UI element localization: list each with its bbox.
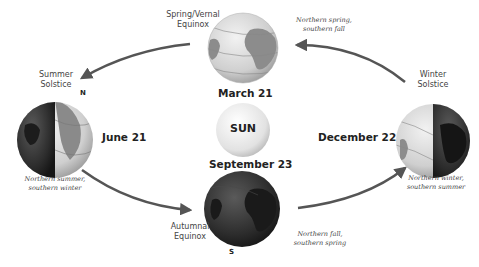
summer-title-line1: Summer — [28, 70, 84, 80]
summer-date: June 21 — [102, 131, 146, 143]
south-pole-label: S — [229, 248, 234, 256]
winter-solstice-title: Winter Solstice — [405, 70, 461, 89]
autumn-title-line1: Autumnal — [162, 222, 218, 232]
winter-note: Northern winter, southern summer — [393, 174, 479, 191]
autumn-equinox-title: Autumnal Equinox — [162, 222, 218, 241]
autumn-note-line1: Northern fall, — [282, 230, 358, 239]
winter-note-line1: Northern winter, — [393, 174, 479, 183]
autumn-note-line2: southern spring — [282, 239, 358, 248]
autumn-date: September 23 — [209, 158, 292, 170]
spring-date: March 21 — [218, 87, 273, 99]
spring-equinox-title: Spring/Vernal Equinox — [158, 10, 228, 29]
summer-note-line2: southern winter — [15, 184, 95, 193]
arrow-winter-to-spring — [297, 45, 405, 82]
arrow-autumn-to-winter — [298, 168, 405, 208]
summer-note: Northern summer, southern winter — [15, 175, 95, 192]
winter-date: December 22 — [318, 131, 396, 143]
arrow-summer-to-autumn — [82, 170, 190, 210]
winter-note-line2: southern summer — [393, 183, 479, 192]
spring-note-line1: Northern spring, — [288, 16, 360, 25]
summer-title-line2: Solstice — [28, 80, 84, 90]
spring-title-line2: Equinox — [158, 20, 228, 30]
globe-summer — [17, 100, 95, 180]
globe-winter — [396, 100, 473, 182]
sun-label: SUN — [216, 122, 270, 135]
winter-title-line1: Winter — [405, 70, 461, 80]
spring-note-line2: southern fall — [288, 25, 360, 34]
autumn-note: Northern fall, southern spring — [282, 230, 358, 247]
summer-solstice-title: Summer Solstice — [28, 70, 84, 89]
autumn-title-line2: Equinox — [162, 232, 218, 242]
spring-note: Northern spring, southern fall — [288, 16, 360, 33]
summer-note-line1: Northern summer, — [15, 175, 95, 184]
spring-title-line1: Spring/Vernal — [158, 10, 228, 20]
north-pole-label: N — [80, 89, 86, 97]
arrow-spring-to-summer — [82, 44, 190, 78]
winter-title-line2: Solstice — [405, 80, 461, 90]
